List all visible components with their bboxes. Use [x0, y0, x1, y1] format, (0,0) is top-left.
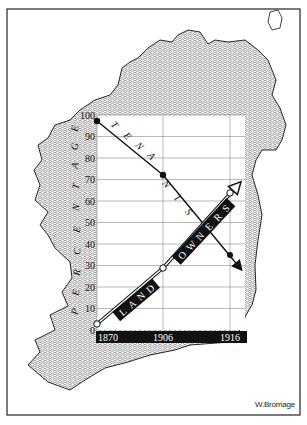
svg-text:20: 20 [85, 282, 95, 293]
svg-text:80: 80 [85, 153, 95, 164]
chart-figure: 100 90 80 70 60 50 40 30 20 10 0 P E R C… [0, 0, 307, 425]
svg-text:100: 100 [80, 110, 95, 121]
svg-text:10: 10 [85, 303, 95, 314]
svg-text:70: 70 [85, 174, 95, 185]
svg-text:40: 40 [85, 239, 95, 250]
svg-text:1906: 1906 [153, 332, 173, 343]
svg-text:90: 90 [85, 131, 95, 142]
svg-text:1870: 1870 [98, 332, 118, 343]
svg-text:30: 30 [85, 260, 95, 271]
landowners-point-1870 [94, 321, 100, 327]
tenants-point-1870 [94, 118, 100, 124]
x-axis-bar: 1870 1906 1916 [96, 331, 247, 343]
tenants-point-1906 [160, 172, 166, 178]
svg-text:60: 60 [85, 196, 95, 207]
svg-text:0: 0 [90, 325, 95, 336]
artist-credit: W.Bromage [255, 400, 295, 409]
landowners-point-1906 [160, 265, 166, 271]
svg-text:50: 50 [85, 217, 95, 228]
tenants-point-1916 [227, 252, 233, 258]
svg-text:1916: 1916 [220, 332, 240, 343]
landowners-point-1916 [227, 190, 233, 196]
